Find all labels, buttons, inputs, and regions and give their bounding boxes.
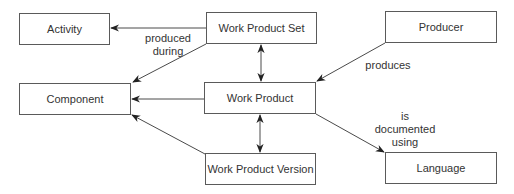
- node-work-product-label: Work Product: [227, 92, 293, 104]
- node-activity: Activity: [19, 13, 110, 45]
- node-work-product: Work Product: [204, 82, 316, 114]
- node-component: Component: [19, 83, 131, 115]
- node-producer: Producer: [385, 11, 497, 43]
- node-activity-label: Activity: [47, 23, 82, 35]
- node-work-product-version: Work Product Version: [205, 153, 316, 185]
- node-work-product-version-label: Work Product Version: [207, 163, 313, 175]
- edge-label-produces: produces: [358, 59, 418, 72]
- node-work-product-set-label: Work Product Set: [219, 22, 305, 34]
- edge-label-produces-text: produces: [358, 59, 418, 72]
- edge-label-during: during: [133, 45, 203, 58]
- node-producer-label: Producer: [419, 21, 464, 33]
- node-work-product-set: Work Product Set: [206, 12, 317, 44]
- edge-label-documented: documented: [370, 123, 440, 136]
- edge-label-produced-during: produced during: [133, 32, 203, 58]
- edge-label-using: using: [370, 136, 440, 149]
- edge-label-produced: produced: [133, 32, 203, 45]
- edge-version-to-component: [132, 115, 205, 154]
- node-language: Language: [385, 152, 497, 184]
- node-language-label: Language: [417, 162, 466, 174]
- node-component-label: Component: [47, 93, 104, 105]
- edge-label-is: is: [370, 110, 440, 123]
- diagram-canvas: Activity Work Product Set Producer Compo…: [0, 0, 514, 194]
- edge-label-is-documented-using: is documented using: [370, 110, 440, 149]
